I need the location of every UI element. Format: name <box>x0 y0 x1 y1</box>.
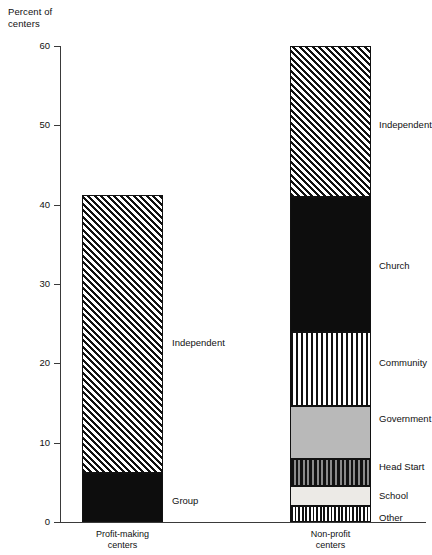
segment-label-nonprofit-church: Church <box>379 260 410 271</box>
bar-non-profit-centers <box>290 46 371 522</box>
y-tick-label-40: 40 <box>39 199 50 210</box>
y-axis-title: Percent of centers <box>8 6 52 29</box>
y-tick-label-50: 50 <box>39 119 50 130</box>
segment-nonprofit-school <box>290 486 371 506</box>
segment-label-nonprofit-community: Community <box>379 357 427 368</box>
y-tick-mark-40 <box>54 205 61 206</box>
segment-nonprofit-government <box>290 406 371 459</box>
y-tick-mark-60 <box>54 46 61 47</box>
segment-nonprofit-head-start <box>290 459 371 487</box>
segment-nonprofit-independent <box>290 46 371 197</box>
segment-label-nonprofit-other: Other <box>379 512 403 523</box>
bar-profit-making-centers <box>82 46 163 522</box>
x-axis-line <box>60 522 426 523</box>
segment-label-nonprofit-independent: Independent <box>379 119 432 130</box>
y-tick-mark-10 <box>54 443 61 444</box>
category-label-non-profit-centers: Non-profit centers <box>280 529 381 551</box>
segment-profit-group <box>82 473 163 522</box>
y-tick-label-10: 10 <box>39 437 50 448</box>
segment-label-nonprofit-school: School <box>379 490 408 501</box>
y-tick-mark-50 <box>54 125 61 126</box>
segment-nonprofit-other <box>290 506 371 522</box>
category-label-profit-making-centers: Profit-making centers <box>72 529 173 551</box>
segment-label-profit-group: Group <box>172 495 198 506</box>
y-tick-label-20: 20 <box>39 357 50 368</box>
segment-label-nonprofit-government: Government <box>379 413 431 424</box>
y-tick-label-30: 30 <box>39 278 50 289</box>
segment-label-nonprofit-head-start: Head Start <box>379 461 424 472</box>
y-tick-mark-30 <box>54 284 61 285</box>
y-tick-label-60: 60 <box>39 40 50 51</box>
y-tick-label-0: 0 <box>45 516 50 527</box>
y-tick-mark-0 <box>54 522 61 523</box>
y-tick-mark-20 <box>54 363 61 364</box>
segment-nonprofit-community <box>290 332 371 406</box>
segment-profit-independent <box>82 195 163 473</box>
segment-nonprofit-church <box>290 197 371 332</box>
segment-label-profit-independent: Independent <box>172 337 225 348</box>
